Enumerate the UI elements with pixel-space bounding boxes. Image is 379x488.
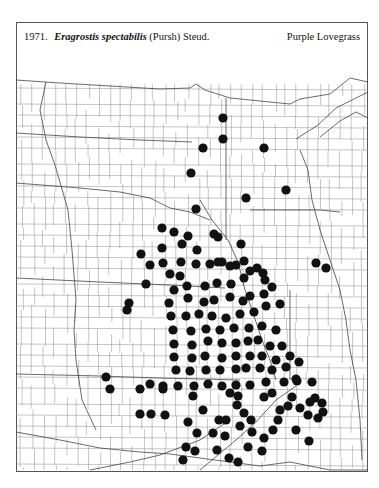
occurrence-dot — [236, 239, 245, 248]
occurrence-dot — [247, 427, 256, 436]
occurrence-dot — [226, 279, 235, 288]
occurrence-dot — [209, 295, 218, 304]
occurrence-dot — [243, 336, 252, 345]
occurrence-dot — [212, 278, 221, 287]
occurrence-dot — [265, 341, 274, 350]
occurrence-dot — [267, 282, 276, 291]
occurrence-dot — [203, 379, 212, 388]
occurrence-dot — [158, 258, 167, 267]
occurrence-dot — [199, 297, 208, 306]
occurrence-dot — [198, 405, 207, 414]
occurrence-dot — [229, 323, 238, 332]
occurrence-dot — [245, 380, 254, 389]
occurrence-dot — [181, 311, 190, 320]
occurrence-dot — [245, 291, 254, 300]
occurrence-dot — [281, 185, 290, 194]
occurrence-dot — [208, 428, 217, 437]
occurrence-dot — [165, 269, 174, 278]
occurrence-dot — [173, 381, 182, 390]
occurrence-dot — [213, 232, 222, 241]
occurrence-dot — [311, 258, 320, 267]
occurrence-dot — [239, 273, 248, 282]
occurrence-dot — [220, 431, 229, 440]
occurrence-dot — [245, 351, 254, 360]
occurrence-dot — [185, 366, 194, 375]
occurrence-dot — [267, 365, 276, 374]
occurrence-dot — [275, 405, 284, 414]
occurrence-dot — [271, 355, 280, 364]
occurrence-dot — [217, 381, 226, 390]
occurrence-dot — [145, 379, 154, 388]
occurrence-dot — [215, 325, 224, 334]
occurrence-dot — [205, 259, 214, 268]
occurrence-dot — [294, 357, 303, 366]
occurrence-dots — [101, 113, 330, 466]
occurrence-dot — [181, 442, 190, 451]
occurrence-dot — [231, 338, 240, 347]
occurrence-dot — [213, 257, 222, 266]
occurrence-dot — [215, 365, 224, 374]
occurrence-dot — [279, 377, 288, 386]
occurrence-dot — [307, 377, 316, 386]
occurrence-dot — [233, 457, 242, 466]
occurrence-dot — [217, 353, 226, 362]
occurrence-dot — [157, 243, 166, 252]
occurrence-dot — [291, 374, 300, 383]
occurrence-dot — [317, 398, 326, 407]
occurrence-dot — [194, 309, 203, 318]
occurrence-dot — [212, 445, 221, 454]
occurrence-dot — [245, 266, 254, 275]
occurrence-dot — [243, 442, 252, 451]
occurrence-dot — [257, 351, 266, 360]
occurrence-dot — [267, 388, 276, 397]
occurrence-dot — [273, 415, 282, 424]
occurrence-dot — [200, 281, 209, 290]
occurrence-dot — [187, 353, 196, 362]
occurrence-dot — [304, 436, 313, 445]
occurrence-dot — [177, 239, 186, 248]
occurrence-dot — [105, 384, 114, 393]
occurrence-dot — [192, 428, 201, 437]
occurrence-dot — [175, 271, 184, 280]
occurrence-dot — [241, 193, 250, 202]
occurrence-dot — [182, 281, 191, 290]
occurrence-dot — [303, 410, 312, 419]
occurrence-dot — [259, 392, 268, 401]
occurrence-dot — [176, 257, 185, 266]
occurrence-dot — [249, 307, 258, 316]
occurrence-dot — [285, 351, 294, 360]
occurrence-dot — [171, 365, 180, 374]
occurrence-dot — [257, 446, 266, 455]
state-boundaries — [16, 78, 368, 470]
occurrence-dot — [295, 403, 304, 412]
occurrence-dot — [313, 413, 322, 422]
occurrence-dot — [225, 292, 234, 301]
occurrence-dot — [168, 325, 177, 334]
occurrence-dot — [271, 325, 280, 334]
occurrence-dot — [157, 223, 166, 232]
occurrence-dot — [235, 309, 244, 318]
occurrence-dot — [260, 275, 269, 284]
occurrence-dot — [275, 299, 284, 308]
occurrence-dot — [287, 392, 296, 401]
occurrence-dot — [235, 421, 244, 430]
occurrence-dot — [189, 381, 198, 390]
occurrence-dot — [259, 143, 268, 152]
occurrence-dot — [135, 409, 144, 418]
occurrence-dot — [218, 113, 227, 122]
occurrence-dot — [190, 446, 199, 455]
occurrence-dot — [231, 364, 240, 373]
occurrence-dot — [246, 415, 255, 424]
occurrence-dot — [217, 338, 226, 347]
occurrence-dot — [231, 351, 240, 360]
occurrence-dot — [283, 401, 292, 410]
occurrence-dot — [259, 289, 268, 298]
occurrence-dot — [257, 321, 266, 330]
occurrence-dot — [221, 313, 230, 322]
occurrence-dot — [135, 384, 144, 393]
occurrence-dot — [169, 352, 178, 361]
occurrence-dot — [101, 372, 110, 381]
occurrence-dot — [259, 433, 268, 442]
occurrence-dot — [214, 415, 223, 424]
occurrence-dot — [277, 341, 286, 350]
